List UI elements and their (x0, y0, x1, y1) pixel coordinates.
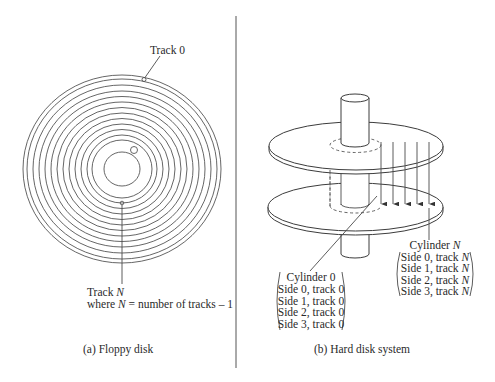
track0-marker (142, 78, 146, 82)
disk-organization-diagram: Track 0 Track N where N = number of trac… (0, 0, 495, 382)
floppy-hub-ring (92, 140, 152, 198)
cylinder0-label-block: Cylinder 0 Side 0, track 0 Side 1, track… (277, 271, 345, 331)
floppy-caption: (a) Floppy disk (83, 343, 154, 356)
floppy-center-hole (104, 152, 140, 186)
trackN-label: Track N (87, 286, 125, 298)
trackN-definition: where N = number of tracks – 1 (87, 298, 233, 310)
floppy-index-hole (131, 147, 138, 154)
top-spindle (341, 94, 369, 147)
cylinderN-label-block: Cylinder N Side 0, track N Side 1, track… (397, 239, 473, 298)
hard-disk-figure: Cylinder 0 Side 0, track 0 Side 1, track… (268, 94, 473, 356)
cylinderN-line-3: Side 3, track N (401, 285, 471, 298)
floppy-disk-figure: Track 0 Track N where N = number of trac… (23, 44, 233, 356)
cylinder0-line-3: Side 3, track 0 (278, 318, 345, 331)
track0-label: Track 0 (150, 44, 185, 56)
hard-disk-caption: (b) Hard disk system (314, 343, 410, 356)
track0-leader-line (145, 56, 160, 78)
